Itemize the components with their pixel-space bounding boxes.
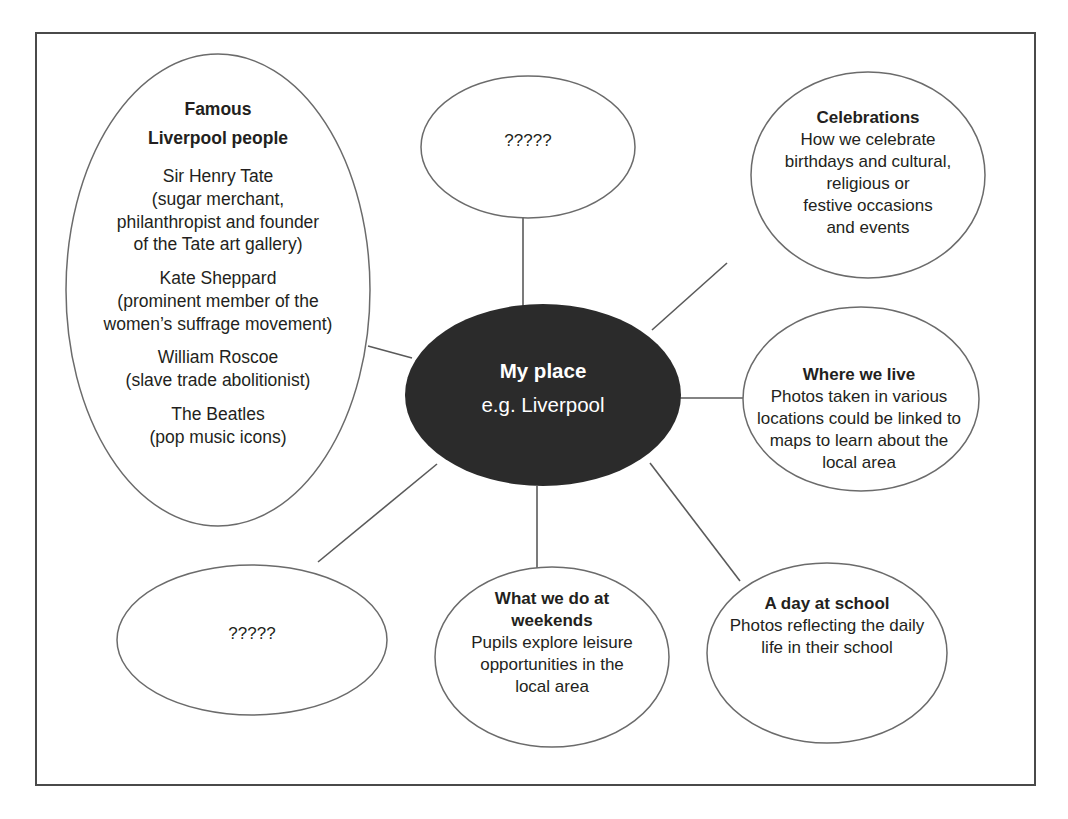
node-what-we-do-at-weekends[interactable] [435, 567, 669, 747]
connector-celebrations [652, 263, 727, 330]
connector-a-day-at-school [650, 463, 740, 581]
node-famous-liverpool-people[interactable] [66, 54, 370, 526]
mind-map-shapes [0, 0, 1068, 819]
mind-map-canvas: Famous Liverpool people Sir Henry Tate (… [0, 0, 1068, 819]
node-my-place-center[interactable] [405, 304, 681, 486]
connector-placeholder-bottom [318, 464, 437, 562]
node-celebrations[interactable] [751, 72, 985, 278]
node-placeholder-top[interactable] [421, 76, 635, 218]
node-a-day-at-school[interactable] [707, 563, 947, 743]
connector-famous-people [368, 346, 412, 358]
node-where-we-live[interactable] [743, 307, 979, 491]
node-placeholder-bottom[interactable] [117, 565, 387, 715]
